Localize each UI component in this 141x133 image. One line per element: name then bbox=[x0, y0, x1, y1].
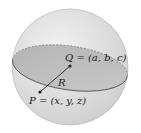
label-P: P = (x, y, z) bbox=[28, 95, 86, 106]
sphere-diagram: Q = (a, b, c) R P = (x, y, z) bbox=[0, 0, 141, 133]
center-point-Q bbox=[68, 64, 71, 67]
label-Q: Q = (a, b, c) bbox=[65, 52, 127, 63]
label-R: R bbox=[57, 77, 66, 88]
surface-point-P bbox=[38, 90, 41, 93]
